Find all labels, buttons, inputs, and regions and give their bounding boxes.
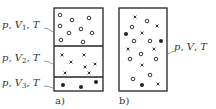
- filled-circle-particle-icon: [124, 32, 128, 36]
- open-circle-particle-icon: [90, 31, 94, 35]
- leader-line: [44, 61, 53, 64]
- compartment-2: p, V2, T: [2, 52, 96, 74]
- compartment-label-2: p, V2, T: [2, 52, 41, 65]
- cross-particle-icon: [141, 32, 144, 35]
- compartment-1: p, V1, T: [2, 13, 94, 44]
- open-circle-particle-icon: [81, 40, 85, 44]
- cross-particle-icon: [94, 63, 97, 66]
- panel-a: p, V1, Tp, V2, Tp, V3, Ta): [2, 8, 103, 106]
- caption-a: a): [55, 95, 65, 106]
- cross-particle-icon: [153, 48, 156, 51]
- container-a-outline: [54, 8, 103, 91]
- mixture-label: p, V, T: [174, 41, 208, 52]
- filled-circle-particle-icon: [159, 39, 163, 43]
- cross-particle-icon: [156, 25, 159, 28]
- cross-particle-icon: [70, 61, 73, 64]
- filled-circle-particle-icon: [140, 83, 144, 87]
- container-b-outline: [119, 8, 167, 91]
- gas-mixing-diagram: p, V1, Tp, V2, Tp, V3, Ta) p, V, Tb): [0, 0, 216, 109]
- open-circle-particle-icon: [58, 13, 62, 17]
- open-circle-particle-icon: [87, 16, 91, 20]
- open-circle-particle-icon: [67, 31, 71, 35]
- open-circle-particle-icon: [148, 73, 152, 77]
- open-circle-particle-icon: [130, 25, 134, 29]
- caption-b: b): [119, 95, 129, 106]
- open-circle-particle-icon: [58, 24, 62, 28]
- filled-circle-particle-icon: [61, 83, 65, 87]
- open-circle-particle-icon: [139, 52, 143, 56]
- cross-particle-icon: [157, 83, 160, 86]
- open-circle-particle-icon: [145, 19, 149, 23]
- compartment-label-1: p, V1, T: [2, 19, 41, 32]
- panel-b: p, V, Tb): [119, 8, 208, 106]
- cross-particle-icon: [84, 66, 87, 69]
- compartment-3: p, V3, T: [2, 77, 98, 90]
- filled-circle-particle-icon: [79, 85, 83, 89]
- leader-line: [44, 28, 53, 32]
- cross-particle-icon: [83, 54, 86, 57]
- cross-particle-icon: [88, 72, 91, 75]
- cross-particle-icon: [64, 72, 67, 75]
- open-circle-particle-icon: [154, 57, 158, 61]
- open-circle-particle-icon: [70, 18, 74, 22]
- open-circle-particle-icon: [128, 57, 132, 61]
- cross-particle-icon: [134, 16, 137, 19]
- cross-particle-icon: [141, 64, 144, 67]
- leader-line: [44, 86, 53, 88]
- leader-line: [167, 51, 174, 54]
- compartment-label-3: p, V3, T: [2, 77, 41, 90]
- open-circle-particle-icon: [132, 39, 136, 43]
- filled-circle-particle-icon: [94, 80, 98, 84]
- open-circle-particle-icon: [59, 38, 63, 42]
- open-circle-particle-icon: [148, 39, 152, 43]
- cross-particle-icon: [61, 54, 64, 57]
- open-circle-particle-icon: [79, 27, 83, 31]
- open-circle-particle-icon: [131, 77, 135, 81]
- cross-particle-icon: [127, 48, 130, 51]
